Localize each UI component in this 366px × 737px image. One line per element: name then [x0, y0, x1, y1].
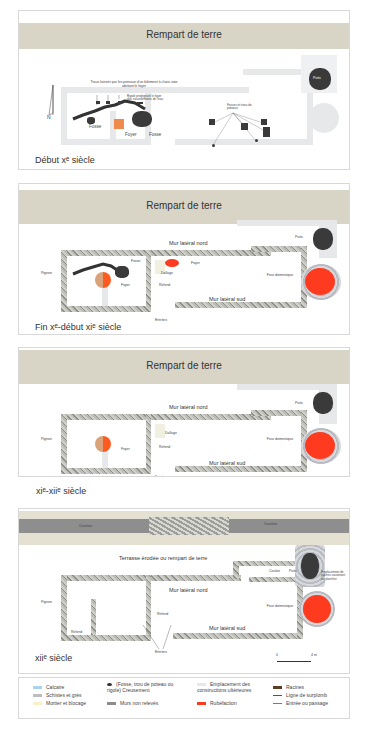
label-refend-left: Refend [71, 631, 82, 635]
label-four: Four domestique [265, 438, 295, 442]
panel-debut-xe: Rempart de terre Puits N Trous laissés p… [18, 10, 350, 170]
four-domestique [303, 595, 331, 623]
label-puits: Puits [313, 77, 321, 81]
foyer-hearth-left [95, 272, 111, 288]
fosse-right [132, 111, 152, 127]
four-domestique [305, 432, 335, 459]
wall-west-pignon [61, 250, 67, 312]
wall-south-east [175, 466, 305, 472]
label-couloir: Couloir [269, 570, 280, 574]
wall-south-west [61, 468, 151, 474]
label-entrees: Entrées [155, 476, 167, 477]
wall-north-west [61, 414, 271, 420]
wall-north-east [251, 246, 307, 252]
label-refend-right: Refend [157, 613, 168, 617]
label-pignon: Pignon [41, 601, 52, 605]
label-mur-nord: Mur latéral nord [169, 587, 208, 593]
courtine-rubble [149, 517, 229, 535]
post-hole [118, 101, 122, 104]
wall-north [61, 575, 241, 581]
ghost-oven [309, 103, 339, 133]
wall-west-pignon [61, 414, 67, 474]
label-terrasse: Terrasse érodée ou rempart de terre [119, 555, 207, 561]
rampart-label: Rempart de terre [19, 360, 349, 371]
label-foyer-right: Foyer [191, 262, 200, 266]
label-north: N [47, 115, 51, 121]
label-foyer-left: Foyer [121, 284, 130, 288]
legend-item-emplacement: Emplacement des constructions ultérieure… [197, 681, 259, 693]
label-dallage: Dallage [165, 432, 177, 436]
legend-item-rubefaction: Rubéfaction [197, 700, 237, 706]
label-fosse-right: Fosse [149, 133, 161, 138]
legend-item-mortier: Mortier et blocage [33, 700, 86, 706]
label-refend: Refend [159, 284, 170, 288]
label-courtine-right: Courtine [264, 523, 277, 527]
label-foyer: Foyer [125, 133, 137, 138]
label-pignon: Pignon [41, 438, 52, 442]
puits-well [313, 392, 333, 414]
label-four: Four domestique [265, 274, 295, 278]
legend-item-entree: Entrée ou passage [273, 700, 328, 706]
fosse [115, 266, 129, 278]
legend-item-calcaire: Calcaire [33, 684, 64, 690]
legend-item-surplomb: Ligne de surplomb [273, 692, 327, 698]
label-mur-nord: Mur latéral nord [169, 240, 208, 246]
scale-bar [277, 661, 311, 662]
post-hole [106, 101, 110, 104]
period-caption: xiiᵉ siècle [35, 653, 72, 663]
rampart-label: Rempart de terre [19, 29, 349, 40]
legend-item-murs-non-releves: Murs non relevés [107, 700, 158, 706]
period-caption: Fin xᵉ-début xiᵉ siècle [35, 322, 121, 332]
wall-south-east [175, 302, 305, 308]
panel-xiie: Courtine Courtine Terrasse érodée ou rem… [18, 508, 350, 674]
scale-end: 4 m [311, 654, 317, 658]
label-poutres: Emplacement de poutres soutenant un plan… [321, 571, 349, 581]
label-dallage: Dallage [161, 272, 173, 276]
label-puits: Puits [295, 236, 303, 240]
label-fosse-left: Fosse [89, 125, 101, 130]
dallage [155, 424, 165, 438]
puits-well [313, 228, 333, 250]
panel-fin-xe-debut-xie: Rempart de terre Puits Mur latéral nord … [18, 183, 350, 335]
period-caption: xiᵉ-xiiᵉ siècle [36, 486, 86, 496]
foyer-hearth [114, 119, 124, 129]
label-ditch: Rigole protégeant le foyer des ruisselle… [127, 95, 167, 102]
legend-item-racines: Racines [273, 684, 304, 690]
panel-xie-xiie: Rempart de terre Puits Mur latéral nord … [18, 347, 350, 477]
label-mur-nord: Mur latéral nord [169, 404, 208, 410]
foyer-hearth [95, 436, 111, 452]
wall-couloir [233, 561, 297, 566]
label-foyer: Foyer [121, 448, 130, 452]
wall-refend [146, 414, 151, 474]
label-four: Four domestique [265, 605, 295, 609]
legend-item-schistes: Schistes et grès [33, 692, 82, 698]
label-puits: Puits [295, 402, 303, 406]
wall-north-west [61, 250, 271, 256]
rampart-label: Rempart de terre [19, 200, 349, 211]
foyer-hearth-right [165, 259, 179, 267]
wall-north-east [251, 410, 307, 416]
fosse-left [87, 117, 95, 124]
period-caption: Début xᵉ siècle [35, 155, 95, 165]
post-hole [137, 102, 143, 104]
wall-couloir-south [249, 577, 299, 582]
label-entrees: Entrées [155, 319, 167, 323]
wall-west-pignon [61, 575, 67, 641]
label-courtine-left: Courtine [79, 525, 92, 529]
label-fosses-center: Fosses et trous de poteaux [227, 104, 253, 111]
label-puits: Puits [289, 570, 297, 574]
legend: Calcaire Schistes et grès Mortier et blo… [18, 677, 350, 719]
puits-well [301, 553, 319, 579]
label-mur-sud: Mur latéral sud [209, 625, 245, 631]
label-pignon: Pignon [41, 272, 52, 276]
four-domestique [305, 268, 335, 295]
label-entrees: Entrées [155, 651, 167, 655]
scale-start: 0 [276, 654, 278, 658]
wall-refend-left [91, 599, 96, 637]
label-mur-sud: Mur latéral sud [209, 460, 245, 466]
label-mur-sud: Mur latéral sud [209, 296, 245, 302]
wall-south-west [61, 306, 151, 312]
label-refend: Refend [159, 446, 170, 450]
post-hole [96, 101, 100, 104]
legend-item-creusement: (Fosse, trou de poteau ou rigole) Creuse… [107, 681, 179, 693]
